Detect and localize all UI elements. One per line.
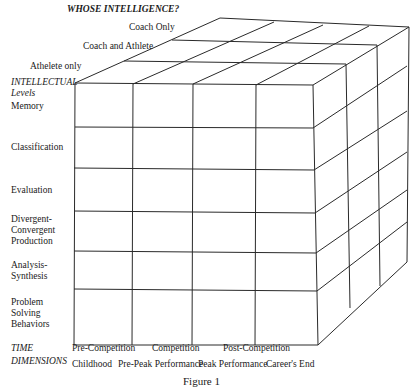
level-divergent-line2: Convergent [11, 225, 55, 236]
vertical-axis-heading: INTELLECTUAL Levels [11, 77, 78, 99]
level-classification: Classification [11, 142, 63, 153]
time-row1-post-competition: Post-Competition [223, 343, 290, 354]
level-classification-text: Classification [11, 142, 63, 153]
depth-label-coach-only: Coach Only [129, 22, 175, 33]
level-problem-line1: Problem [11, 297, 50, 308]
level-problem-line2: Solving [11, 308, 50, 319]
level-analysis-line2: Synthesis [11, 271, 47, 282]
level-divergent-line3: Production [11, 236, 55, 247]
time-row2-childhood: Childhood [72, 359, 112, 370]
level-memory: Memory [11, 101, 44, 112]
diagram-title: WHOSE INTELLIGENCE? [67, 4, 179, 15]
depth-label-athlete-only: Athelete only [30, 61, 81, 72]
time-row1-pre-competition: Pre-Competition [72, 343, 135, 354]
level-problem-solving: Problem Solving Behaviors [11, 297, 50, 330]
level-evaluation-text: Evaluation [11, 185, 52, 196]
time-axis-heading-line1: TIME [11, 342, 67, 355]
time-row2-peak: Peak Performance [198, 359, 267, 370]
level-divergent-line1: Divergent- [11, 214, 55, 225]
level-divergent-convergent: Divergent- Convergent Production [11, 214, 55, 247]
level-problem-line3: Behaviors [11, 319, 50, 330]
time-row2-pre-peak: Pre-Peak Performance [118, 359, 203, 370]
time-axis-heading: TIME DIMENSIONS [11, 342, 67, 368]
time-row2-careers-end: Career's End [266, 359, 314, 370]
level-memory-text: Memory [11, 101, 44, 112]
depth-label-coach-and-athlete: Coach and Athlete [83, 41, 153, 52]
time-axis-heading-line2: DIMENSIONS [11, 355, 67, 368]
vertical-axis-heading-line2: Levels [11, 88, 78, 99]
level-analysis-synthesis: Analysis- Synthesis [11, 260, 47, 282]
time-row1-competition: Competition [152, 343, 200, 354]
level-evaluation: Evaluation [11, 185, 52, 196]
level-analysis-line1: Analysis- [11, 260, 47, 271]
figure-caption: Figure 1 [183, 376, 220, 387]
vertical-axis-heading-line1: INTELLECTUAL [11, 77, 78, 88]
